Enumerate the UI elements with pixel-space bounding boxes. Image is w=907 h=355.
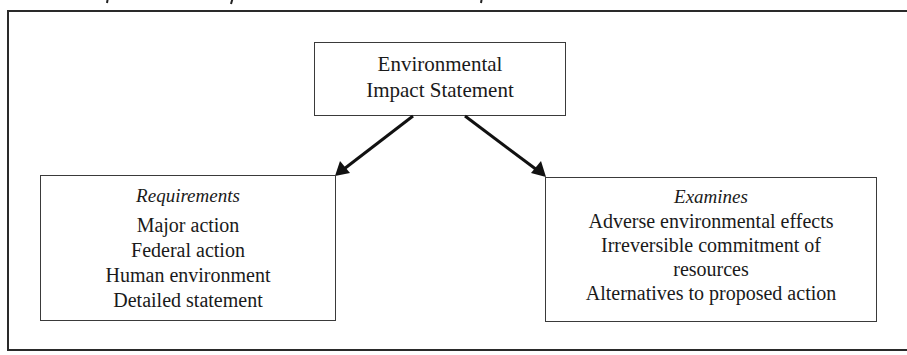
examines-heading: Examines — [546, 185, 876, 209]
examines-item: resources — [546, 257, 876, 281]
cropped-caption — [0, 0, 901, 5]
root-node-line: Environmental — [315, 51, 565, 77]
requirement-item: Major action — [41, 213, 335, 238]
requirements-node: Requirements Major action Federal action… — [40, 175, 336, 321]
examines-node: Examines Adverse environmental effects I… — [545, 177, 877, 322]
examines-item: Irreversible commitment of — [546, 233, 876, 257]
requirement-item: Human environment — [41, 263, 335, 288]
requirement-item: Federal action — [41, 238, 335, 263]
examines-item: Alternatives to proposed action — [546, 281, 876, 305]
requirements-heading: Requirements — [41, 184, 335, 208]
root-node-line: Impact Statement — [315, 77, 565, 103]
root-node-environmental-impact-statement: Environmental Impact Statement — [314, 42, 566, 116]
examines-item: Adverse environmental effects — [546, 209, 876, 233]
requirement-item: Detailed statement — [41, 288, 335, 313]
